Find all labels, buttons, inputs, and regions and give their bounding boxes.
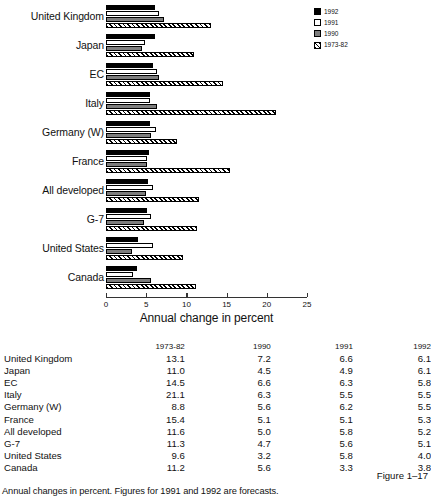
bar-1973-82 <box>106 139 177 144</box>
bar-1990 <box>106 220 144 225</box>
table-cell: 4.0 <box>353 450 431 462</box>
bar-1992 <box>106 63 153 68</box>
table-row-name: Germany (W) <box>0 401 119 413</box>
bar-1992 <box>106 5 155 10</box>
table-cell: 5.5 <box>353 401 431 413</box>
bar-stack <box>106 208 197 232</box>
table-cell: 5.6 <box>185 462 271 474</box>
table-cell: 4.9 <box>271 365 353 377</box>
legend-item: 1992 <box>314 7 348 16</box>
legend-swatch-icon <box>314 42 321 49</box>
table-cell: 6.6 <box>185 377 271 389</box>
table-cell: 5.5 <box>353 389 431 401</box>
bar-1990 <box>106 191 146 196</box>
legend-swatch-icon <box>314 30 321 37</box>
table-row-name: All developed <box>0 426 119 438</box>
bar-stack <box>106 150 230 174</box>
table-cell: 5.5 <box>271 389 353 401</box>
bar-1992 <box>106 121 150 126</box>
table-cell: 5.6 <box>185 401 271 413</box>
bar-1991 <box>106 185 153 190</box>
table-cell: 15.4 <box>119 414 184 426</box>
table-col-header-1991: 1991 <box>271 341 353 353</box>
bar-stack <box>106 266 196 290</box>
table-col-header-1990: 1990 <box>185 341 271 353</box>
bar-1992 <box>106 92 150 97</box>
bar-group-label: Canada <box>0 271 104 284</box>
x-tick <box>186 293 187 297</box>
bar-1990 <box>106 46 142 51</box>
table-cell: 3.3 <box>271 462 353 474</box>
table-row-name: EC <box>0 377 119 389</box>
bar-1992 <box>106 179 148 184</box>
bar-1990 <box>106 75 159 80</box>
bar-group-label: France <box>0 155 104 168</box>
table-cell: 6.1 <box>353 353 431 365</box>
bar-1991 <box>106 243 153 248</box>
table-row: Italy21.16.35.55.5 <box>0 389 431 401</box>
bar-group-label: Japan <box>0 39 104 52</box>
bar-stack <box>106 179 199 203</box>
bar-group-label: G-7 <box>0 213 104 226</box>
table-cell: 3.2 <box>185 450 271 462</box>
bar-1990 <box>106 249 132 254</box>
bar-1991 <box>106 127 156 132</box>
bar-stack <box>106 237 183 261</box>
bar-1973-82 <box>106 197 199 202</box>
table-cell: 7.2 <box>185 353 271 365</box>
bar-group: Germany (W) <box>0 121 431 147</box>
bar-1973-82 <box>106 52 194 57</box>
table-row-name: Japan <box>0 365 119 377</box>
bar-1973-82 <box>106 168 230 173</box>
table-cell: 11.0 <box>119 365 184 377</box>
bar-group: All developed <box>0 179 431 205</box>
bar-group: Canada <box>0 266 431 292</box>
bar-group-label: Germany (W) <box>0 126 104 139</box>
table-row-name: Italy <box>0 389 119 401</box>
bar-1973-82 <box>106 255 183 260</box>
x-axis-title: Annual change in percent <box>106 311 307 325</box>
table-cell: 11.2 <box>119 462 184 474</box>
bar-chart: United KingdomJapanECItalyGermany (W)Fra… <box>0 0 431 335</box>
table-header-row: 1973-82 1990 1991 1992 <box>0 341 431 353</box>
table-body: United Kingdom13.17.26.66.1Japan11.04.54… <box>0 353 431 474</box>
table-cell: 5.8 <box>271 426 353 438</box>
bar-1991 <box>106 69 157 74</box>
table-cell: 8.8 <box>119 401 184 413</box>
bar-group: Italy <box>0 92 431 118</box>
table-cell: 6.2 <box>271 401 353 413</box>
x-tick-label: 25 <box>303 300 312 309</box>
bar-stack <box>106 92 276 116</box>
x-tick <box>227 293 228 297</box>
bar-1992 <box>106 266 137 271</box>
table-row-name: France <box>0 414 119 426</box>
table-row: United States9.63.25.84.0 <box>0 450 431 462</box>
table-cell: 14.5 <box>119 377 184 389</box>
table-cell: 5.0 <box>185 426 271 438</box>
table-row: Japan11.04.54.96.1 <box>0 365 431 377</box>
table-row: France15.45.15.15.3 <box>0 414 431 426</box>
table-col-header-1992: 1992 <box>353 341 431 353</box>
table-cell: 11.6 <box>119 426 184 438</box>
table-row-name: United States <box>0 450 119 462</box>
table-row-name: G-7 <box>0 438 119 450</box>
table-row: EC14.56.66.35.8 <box>0 377 431 389</box>
table-row: United Kingdom13.17.26.66.1 <box>0 353 431 365</box>
table-cell: 6.3 <box>271 377 353 389</box>
table-cell: 5.8 <box>271 450 353 462</box>
bar-1992 <box>106 34 155 39</box>
legend-label: 1990 <box>324 30 338 38</box>
legend-label: 1991 <box>324 19 338 27</box>
bar-1991 <box>106 156 147 161</box>
table-corner-header <box>0 341 119 353</box>
bar-1973-82 <box>106 284 196 289</box>
bar-1990 <box>106 133 151 138</box>
table-cell: 5.3 <box>353 414 431 426</box>
figure-number: Figure 1–17 <box>377 470 428 481</box>
legend-item: 1990 <box>314 29 348 38</box>
bar-stack <box>106 34 194 58</box>
table-row: All developed11.65.05.85.2 <box>0 426 431 438</box>
table-row: Germany (W)8.85.66.25.5 <box>0 401 431 413</box>
bar-1992 <box>106 150 149 155</box>
table-cell: 21.1 <box>119 389 184 401</box>
